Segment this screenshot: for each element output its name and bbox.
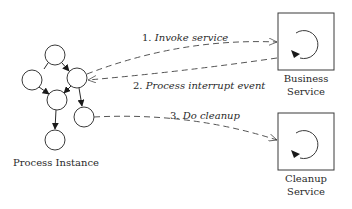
edge-right-lowerright xyxy=(79,88,82,106)
process-node-right[interactable] xyxy=(67,68,87,88)
cleanup-service-label: Cleanup Service xyxy=(285,172,327,198)
business-service-label: Business Service xyxy=(284,72,329,98)
edge-top-right xyxy=(62,63,69,71)
edge-middle-bottom xyxy=(55,110,56,129)
process-node-left[interactable] xyxy=(22,70,42,90)
message-number: 3. xyxy=(170,110,180,121)
service-label-line1: Business xyxy=(284,72,329,85)
edge-tail xyxy=(44,63,48,69)
edge-left-middle xyxy=(39,87,49,94)
message-label-cleanup: 3. Do cleanup xyxy=(170,109,240,122)
message-label-interrupt: 2. Process interrupt event xyxy=(133,79,265,92)
process-node-bottom[interactable] xyxy=(45,130,65,150)
business-service-box[interactable] xyxy=(278,13,334,70)
message-text: Invoke service xyxy=(155,32,228,43)
process-instance-label: Process Instance xyxy=(13,156,99,169)
arrow-invoke-service xyxy=(87,42,277,74)
process-node-middle[interactable] xyxy=(47,90,67,110)
arrow-process-interrupt xyxy=(88,58,277,80)
message-number: 2. xyxy=(133,80,143,91)
process-node-lower-right[interactable] xyxy=(74,107,94,127)
message-text: Do cleanup xyxy=(183,110,240,121)
process-nodes xyxy=(22,45,94,150)
message-number: 1. xyxy=(142,32,152,43)
message-label-invoke: 1. Invoke service xyxy=(142,31,228,44)
service-label-line2: Service xyxy=(285,185,327,198)
cleanup-service-box[interactable] xyxy=(278,113,334,170)
service-label-line1: Cleanup xyxy=(285,172,327,185)
service-label-line2: Service xyxy=(284,85,329,98)
message-text: Process interrupt event xyxy=(146,80,266,91)
process-node-top[interactable] xyxy=(45,45,65,65)
edge-right-middle xyxy=(64,86,71,93)
